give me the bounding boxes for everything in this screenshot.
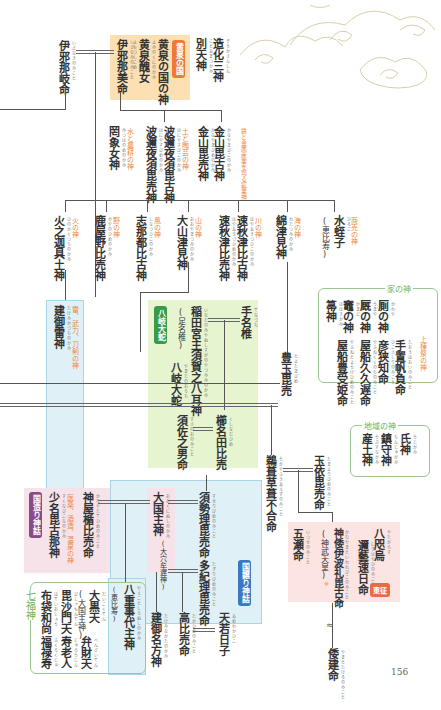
node-yomotsu-okami: 黄泉の国の神 — [157, 39, 168, 105]
lineage-break-icon: ≈ — [326, 620, 334, 630]
node-mizuhanome: 罔象女神 — [108, 126, 119, 170]
node-kanayamabime: 金山毘売神 — [197, 126, 208, 181]
node-tenazuchi: 手名椎 — [240, 306, 251, 339]
shichifukujin-title: 七福神 — [24, 590, 34, 620]
node-shinatsuhiko: 志那都比古神 — [135, 215, 146, 281]
node-takiribime: 多紀理毘売命 — [198, 560, 209, 626]
node-haniyasubiko: 波邇夜須毘古神 — [163, 126, 174, 203]
ie-item-hikosashiri: 彦狭知命 — [377, 340, 388, 384]
node-haniyasubime: 波邇夜須毘売神 — [145, 126, 156, 203]
node-sukunabikona: 少名毘古那神 — [48, 492, 59, 558]
ie-item-umaya: 厩の神 — [359, 300, 370, 333]
node-izanami: 伊邪那美命 — [116, 39, 127, 94]
node-hayaakitsuhiko: 速秋津比古神 — [236, 215, 247, 281]
yomi-section-tag: 黄泉の国 — [172, 40, 185, 78]
node-nigihayahi: 邇藝速日命 — [357, 540, 368, 595]
chiiki-item-ujigami: 氏神 — [399, 433, 410, 455]
node-yomotsu-shikome: 黄泉醜女 — [138, 39, 149, 83]
node-kayanohime: 鹿屋野比売神 — [94, 215, 105, 281]
node-tamayorihime: 玉依毘売命 — [313, 455, 324, 510]
node-itsuse: 五瀬命 — [292, 528, 303, 561]
node-betsuamatsukami: 別天神 — [195, 38, 206, 71]
node-kamumusubi: 神屋楯比売命 — [82, 492, 93, 558]
node-ugayafukiaezu: 鵜葺草葺不合命 — [265, 455, 276, 532]
node-okuninushi: 大国主神 — [152, 492, 163, 536]
node-hiruko: 水蛭子 — [333, 215, 344, 248]
node-takahime: 高比売命 — [178, 612, 189, 656]
node-izanagi: 伊邪那岐命 — [58, 40, 69, 95]
node-yamatotakeru: 倭建命 — [327, 648, 338, 681]
kunizukuri-section-tag: 国造り神話 — [29, 492, 42, 538]
node-takemikazuchi: 建御雷神 — [53, 305, 64, 349]
yamata-section-tag: 八岐大蛇 — [154, 306, 167, 344]
node-watatsumi: 綿津見神 — [275, 215, 286, 259]
node-takeminakata: 建御名方神 — [150, 612, 161, 667]
fukujin-daikokuten: 大黒天 — [88, 590, 99, 623]
node-zouka-sanshin: 造化三神 — [212, 38, 223, 82]
fukujin-bishamonten: 毘沙門天 — [60, 590, 71, 634]
chiiki-no-kami-title: 地域の神 — [362, 420, 398, 431]
fukujin-hotei: 布袋和尚 — [40, 590, 51, 634]
ie-item-taokiho: 手置帆負命 — [394, 340, 405, 395]
node-kushinadahime: 櫛名田比売 — [215, 415, 226, 470]
kuniyuzuri-section-tag: 国譲り神話 — [238, 560, 251, 606]
node-hayaakitsuhime: 速秋津比売神 — [218, 215, 229, 281]
ie-no-kami-title: 家の神 — [385, 283, 413, 294]
ie-item-yafunetoyouke: 屋船豊受姫命 — [336, 340, 347, 406]
node-amewakahiko: 天若日子 — [218, 612, 229, 656]
ie-item-hahakigami: 箒神 — [325, 300, 336, 322]
node-oyamatsumi: 大山津見神 — [176, 215, 187, 270]
node-yamatanoorochi: 八岐大蛇 — [170, 362, 181, 406]
node-toyotamahime: 豊玉毘売 — [280, 352, 291, 396]
fukujin-jurojin: 寿老人 — [60, 636, 71, 669]
page-number: 156 — [391, 667, 408, 677]
ie-item-yafunekukunochi: 屋船久久遅命 — [359, 340, 370, 406]
node-inadanomiya: 稲田宮主須賀之八耳神 — [190, 306, 201, 416]
node-jimmu: 神倭伊波礼毘古命 — [332, 528, 342, 608]
fukujin-benzaiten: 弁財天 — [80, 636, 91, 669]
chiiki-item-ubusuna: 産土神 — [361, 433, 372, 466]
node-suseribime: 須勢理毘売命 — [198, 492, 209, 558]
cloud-decoration-icon — [230, 0, 441, 95]
node-kagutsuchi: 火之迦具土神 — [53, 215, 64, 281]
chiiki-item-chinju: 鎮守神 — [380, 433, 391, 466]
tousei-section-tag: 東征 — [370, 583, 390, 597]
ie-item-kamado: 竈の神 — [342, 300, 353, 333]
ie-item-kawaya: 厠の神 — [377, 300, 388, 333]
fukujin-fukurokuju: 福禄寿 — [40, 636, 51, 669]
